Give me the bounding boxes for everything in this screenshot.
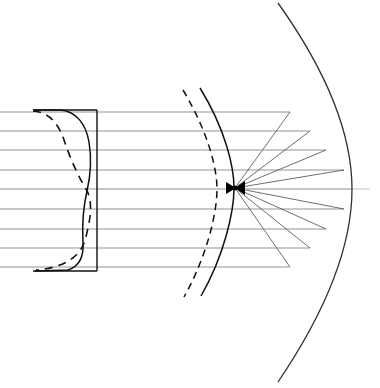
primary-mirror-arc bbox=[278, 3, 352, 382]
reflected-ray-6 bbox=[235, 188, 344, 209]
optical-diagram-canvas bbox=[0, 0, 380, 388]
field-stop-arc bbox=[183, 90, 217, 297]
focal-point-core bbox=[233, 186, 238, 191]
reflected-ray-2 bbox=[235, 131, 310, 188]
reflected-ray-9 bbox=[235, 188, 290, 267]
reflected-ray-7 bbox=[235, 188, 326, 229]
focal-point-marker bbox=[226, 181, 245, 195]
corrector-profile-dashed-curve bbox=[33, 111, 91, 270]
corrector-plate-group bbox=[33, 110, 97, 271]
reflected-ray-4 bbox=[235, 170, 344, 188]
schmidt-camera-diagram bbox=[0, 0, 380, 388]
reflected-ray-8 bbox=[235, 188, 310, 248]
